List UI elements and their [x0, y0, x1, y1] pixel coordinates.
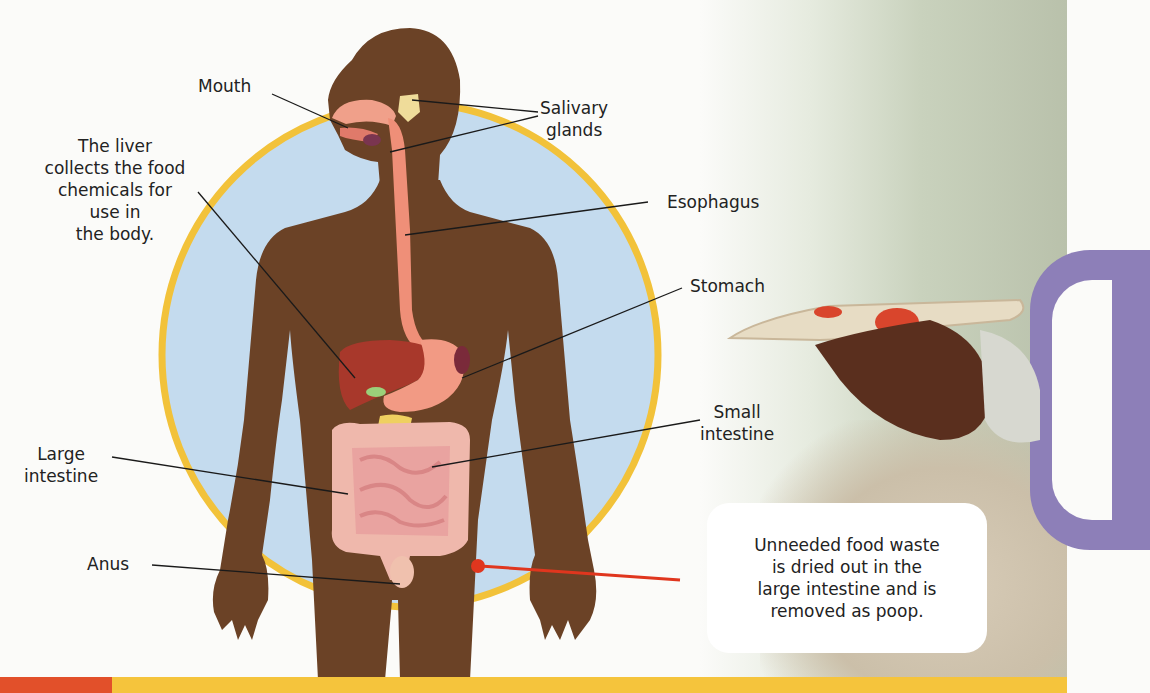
- label-esophagus: Esophagus: [667, 191, 759, 213]
- info-callout-box: Unneeded food waste is dried out in the …: [707, 503, 987, 653]
- callout-text: Unneeded food waste is dried out in the …: [754, 534, 940, 622]
- label-mouth: Mouth: [198, 75, 251, 97]
- footer-bar-yellow: [112, 677, 1067, 693]
- red-pointer-dot: [471, 559, 485, 573]
- label-salivary-glands: Salivary glands: [540, 97, 608, 141]
- label-liver: The liver collects the food chemicals fo…: [20, 135, 210, 245]
- label-large-intestine: Large intestine: [24, 443, 98, 487]
- pizza-hand-photo: [730, 300, 1040, 443]
- label-stomach: Stomach: [690, 275, 765, 297]
- label-anus: Anus: [87, 553, 129, 575]
- label-small-intestine: Small intestine: [700, 401, 774, 445]
- footer-bar-red: [0, 677, 112, 693]
